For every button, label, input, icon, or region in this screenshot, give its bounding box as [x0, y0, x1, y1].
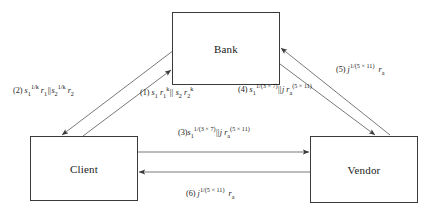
- edge-5-label: (5) j1/(5 × 11) ra: [336, 66, 384, 75]
- edge-3-j: j: [220, 128, 222, 137]
- node-bank[interactable]: Bank: [172, 12, 280, 85]
- node-bank-label: Bank: [214, 43, 238, 55]
- edge-1-r2-sub: 2: [187, 92, 190, 99]
- edge-6-ra-sub: a: [232, 193, 235, 200]
- edge-4-s1-sub: 1: [253, 89, 256, 96]
- edge-3-ra-sup: (5 × 11): [230, 125, 250, 132]
- edge-3-number: (3): [178, 128, 188, 137]
- edge-1-sep: ||: [169, 88, 173, 97]
- edge-5-ra-sub: a: [382, 69, 385, 76]
- edge-5-number: (5): [336, 65, 346, 74]
- edge-4-ra-sub: a: [289, 89, 292, 96]
- edge-6-label: (6) j1/(5 × 11) ra: [186, 190, 234, 199]
- edge-2-r2-sub: 2: [71, 90, 74, 97]
- node-vendor-label: Vendor: [348, 164, 381, 176]
- edge-3-label: (3)s11/(3 × 7)||j ra(5 × 11): [178, 129, 250, 138]
- edge-1-s2-sub: 2: [179, 92, 182, 99]
- protocol-diagram: Bank Client Vendor (2) s11/k r1||s21/k r…: [0, 0, 431, 220]
- node-client[interactable]: Client: [30, 136, 138, 201]
- edge-2-s1-sub: 1: [28, 90, 31, 97]
- edge-4-j: j: [282, 85, 284, 94]
- edge-1-number: (1): [140, 88, 150, 97]
- edge-4-ra-sup: (5 × 11): [292, 82, 312, 89]
- edge-4-number: (4): [238, 85, 248, 94]
- edge-2-s2-sup: 1/k: [58, 83, 66, 90]
- edge-4-label: (4) s11/(3 × 7)||j ra(5 × 11): [238, 86, 312, 95]
- edge-2-label: (2) s11/k r1||s21/k r2: [13, 87, 74, 96]
- edge-3-s1-sub: 1: [191, 132, 194, 139]
- node-vendor[interactable]: Vendor: [310, 136, 418, 203]
- edge-1-line: [83, 70, 171, 136]
- edge-5-j-sup: 1/(5 × 11): [350, 62, 375, 69]
- edge-2-s2-sub: 2: [55, 90, 58, 97]
- edge-1-s1-sub: 1: [155, 92, 158, 99]
- edge-3-ra-sub: a: [227, 132, 230, 139]
- edge-5-line: [280, 64, 375, 135]
- edge-1-r1-sub: 1: [163, 92, 166, 99]
- edge-6-j-sup: 1/(5 × 11): [200, 186, 225, 193]
- edge-4-s1-sup: 1/(3 × 7): [256, 82, 278, 89]
- edge-1-label: (1) s1 r1k|| s2 r2k: [140, 89, 193, 98]
- edge-6-number: (6): [186, 189, 196, 198]
- edge-1-r2-sup: k: [190, 85, 193, 92]
- edge-2-number: (2): [13, 86, 23, 95]
- node-client-label: Client: [70, 163, 98, 175]
- edge-3-s1-sup: 1/(3 × 7): [194, 125, 216, 132]
- edge-2-s1-sup: 1/k: [31, 83, 39, 90]
